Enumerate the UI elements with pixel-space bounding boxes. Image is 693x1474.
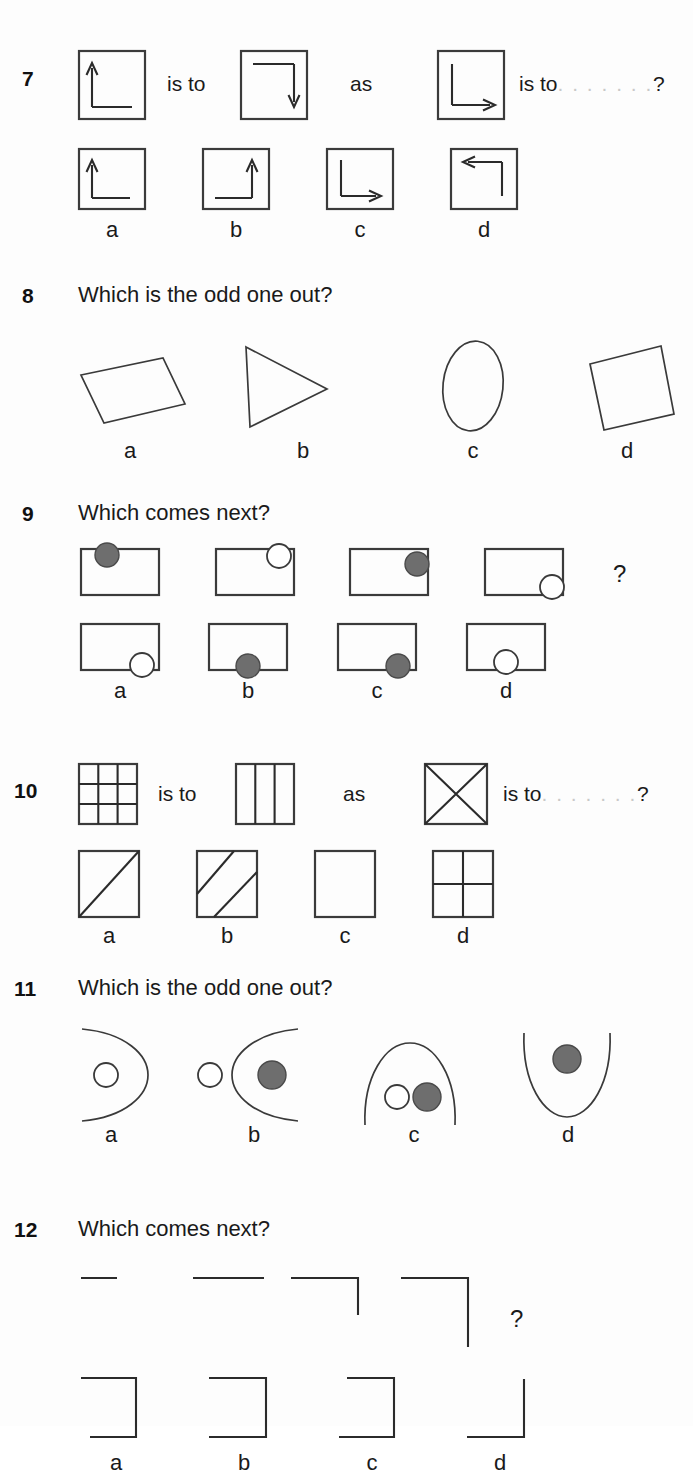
- question-11-number: 11: [14, 977, 36, 1001]
- q12-option-b-label: b: [224, 1450, 264, 1474]
- q12-question-mark: ?: [510, 1305, 523, 1333]
- q11-option-c-label: c: [394, 1122, 434, 1148]
- question-11: 11 Which is the odd one out? a b c d: [0, 965, 693, 1145]
- q12-stimulus-1: [80, 1275, 140, 1355]
- q9-stimulus-1: [80, 548, 160, 596]
- q9-question-mark: ?: [613, 560, 626, 588]
- question-10-number: 10: [14, 779, 37, 803]
- q12-stimulus-4: [400, 1275, 500, 1365]
- q7-connector-3: is to. . . . . . .?: [519, 72, 665, 96]
- q9-option-c-label: c: [357, 678, 397, 704]
- question-12-number: 12: [14, 1218, 37, 1242]
- q8-option-d-figure[interactable]: [586, 341, 678, 433]
- question-7: 7 is to as is to. . . . . . .?: [0, 0, 693, 250]
- q7-connector-3-text: is to: [519, 72, 558, 95]
- q11-option-c-figure[interactable]: [355, 1035, 465, 1127]
- question-8: 8 Which is the odd one out? a b c d: [0, 275, 693, 465]
- q7-stimulus-1: [78, 50, 146, 120]
- question-8-prompt: Which is the odd one out?: [78, 282, 332, 308]
- q11-option-a-label: a: [91, 1122, 131, 1148]
- question-9-number: 9: [22, 502, 34, 526]
- q10-question-mark: ?: [637, 782, 649, 805]
- question-8-number: 8: [22, 284, 34, 308]
- q9-option-a-label: a: [100, 678, 140, 704]
- q12-option-b-figure[interactable]: [208, 1375, 290, 1445]
- q7-answer-dots: . . . . . . .: [558, 72, 653, 95]
- question-12: 12 Which comes next? ? a b c d: [0, 1175, 693, 1426]
- q10-option-c-label: c: [325, 923, 365, 949]
- q7-option-c-figure[interactable]: [326, 148, 394, 210]
- q7-option-c-label: c: [340, 217, 380, 243]
- q8-option-c-label: c: [453, 438, 493, 464]
- q11-option-a-figure[interactable]: [74, 1025, 156, 1125]
- q10-option-a-figure[interactable]: [78, 850, 140, 918]
- q8-option-c-figure[interactable]: [434, 337, 512, 435]
- q10-connector-1: is to: [158, 782, 197, 806]
- q7-option-a-figure[interactable]: [78, 148, 146, 210]
- q9-option-d-figure[interactable]: [466, 623, 546, 671]
- question-9-prompt: Which comes next?: [78, 500, 270, 526]
- q10-option-d-label: d: [443, 923, 483, 949]
- q12-option-c-figure[interactable]: [338, 1375, 420, 1445]
- q9-stimulus-4: [484, 548, 564, 596]
- q7-connector-2: as: [350, 72, 372, 96]
- q10-option-b-label: b: [207, 923, 247, 949]
- q12-stimulus-3: [290, 1275, 380, 1355]
- q9-stimulus-3: [349, 548, 429, 596]
- question-10: 10 is to as is to. . . . . . .?: [0, 755, 693, 955]
- q9-option-c-figure[interactable]: [337, 623, 417, 671]
- q8-option-b-figure[interactable]: [234, 343, 339, 433]
- q10-stimulus-1: [78, 763, 138, 825]
- q10-connector-3: is to. . . . . . .?: [503, 782, 649, 806]
- q7-stimulus-2: [240, 50, 308, 120]
- q7-question-mark: ?: [653, 72, 665, 95]
- q10-option-d-figure[interactable]: [432, 850, 494, 918]
- q9-option-b-label: b: [228, 678, 268, 704]
- q12-stimulus-2: [192, 1275, 272, 1355]
- q12-option-a-figure[interactable]: [80, 1375, 162, 1445]
- q10-connector-3-text: is to: [503, 782, 542, 805]
- q8-option-a-figure[interactable]: [78, 348, 190, 433]
- q10-option-c-figure[interactable]: [314, 850, 376, 918]
- question-12-prompt: Which comes next?: [78, 1216, 270, 1242]
- q7-option-a-label: a: [92, 217, 132, 243]
- q10-option-a-label: a: [89, 923, 129, 949]
- q8-option-a-label: a: [110, 438, 150, 464]
- q8-option-d-label: d: [607, 438, 647, 464]
- q12-option-c-label: c: [352, 1450, 392, 1474]
- q7-stimulus-3: [437, 50, 505, 120]
- q11-option-d-figure[interactable]: [516, 1027, 618, 1125]
- q9-stimulus-2: [215, 548, 295, 596]
- q12-option-d-label: d: [480, 1450, 520, 1474]
- q7-option-b-figure[interactable]: [202, 148, 270, 210]
- question-9: 9 Which comes next? ?: [0, 490, 693, 715]
- q8-option-b-label: b: [283, 438, 323, 464]
- q7-option-d-label: d: [464, 217, 504, 243]
- q9-option-d-label: d: [486, 678, 526, 704]
- q10-answer-dots: . . . . . . .: [542, 782, 637, 805]
- q11-option-b-figure[interactable]: [196, 1025, 306, 1125]
- question-11-prompt: Which is the odd one out?: [78, 975, 332, 1001]
- q12-option-d-figure[interactable]: [466, 1375, 548, 1445]
- q10-connector-2: as: [343, 782, 365, 806]
- q9-option-a-figure[interactable]: [80, 623, 160, 671]
- q10-stimulus-2: [235, 763, 295, 825]
- q7-option-d-figure[interactable]: [450, 148, 518, 210]
- q7-connector-1: is to: [167, 72, 206, 96]
- q10-stimulus-3: [424, 763, 488, 825]
- q9-option-b-figure[interactable]: [208, 623, 288, 671]
- question-7-number: 7: [22, 67, 34, 91]
- q11-option-b-label: b: [234, 1122, 274, 1148]
- q11-option-d-label: d: [548, 1122, 588, 1148]
- q7-option-b-label: b: [216, 217, 256, 243]
- q12-option-a-label: a: [96, 1450, 136, 1474]
- q10-option-b-figure[interactable]: [196, 850, 258, 918]
